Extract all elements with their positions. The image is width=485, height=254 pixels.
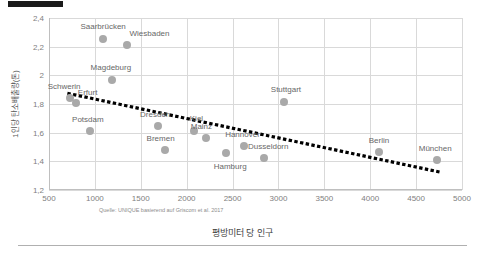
- y-tick-label: 1,4: [33, 157, 44, 166]
- data-point-label: Dusseldorn: [248, 141, 288, 150]
- gridline-horizontal: [49, 190, 462, 191]
- data-point[interactable]: [154, 122, 162, 130]
- data-point-label: Bremen: [147, 133, 175, 142]
- plot-area: 1,21,41,61,822,22,4 50010001500200025003…: [49, 18, 462, 190]
- x-tick-label: 4000: [361, 194, 379, 203]
- y-tick-label: 1,8: [33, 100, 44, 109]
- data-point[interactable]: [280, 98, 288, 106]
- x-tick-label: 3500: [315, 194, 333, 203]
- x-tick-label: 5000: [453, 194, 471, 203]
- x-axis-title: 평방미터 당 인구: [0, 226, 485, 239]
- data-point[interactable]: [202, 134, 210, 142]
- data-point-label: Hannover: [225, 129, 260, 138]
- data-point-label: Mainz: [191, 121, 212, 130]
- x-tick-label: 3000: [270, 194, 288, 203]
- x-tick-label: 2000: [178, 194, 196, 203]
- x-tick-label: 1500: [132, 194, 150, 203]
- data-point[interactable]: [86, 127, 94, 135]
- data-point[interactable]: [123, 41, 131, 49]
- data-point-label: Schwerin: [48, 82, 81, 91]
- gridline-vertical: [462, 18, 463, 190]
- data-point-label: Erfurt: [78, 88, 98, 97]
- data-point[interactable]: [161, 146, 169, 154]
- data-point[interactable]: [260, 154, 268, 162]
- data-point-label: Saarbrücken: [80, 21, 125, 30]
- bottom-divider: [18, 245, 467, 246]
- data-point-label: Hamburg: [214, 162, 247, 171]
- data-point-label: Dresden: [140, 110, 170, 119]
- data-point[interactable]: [433, 156, 441, 164]
- y-tick-label: 2: [40, 71, 44, 80]
- data-point[interactable]: [99, 35, 107, 43]
- data-point-label: München: [419, 143, 452, 152]
- y-tick-label: 1,6: [33, 128, 44, 137]
- data-point[interactable]: [108, 76, 116, 84]
- x-tick-label: 1000: [86, 194, 104, 203]
- data-point-label: Magdeburg: [91, 63, 131, 72]
- x-tick-label: 2500: [224, 194, 242, 203]
- data-point-label: Berlin: [369, 136, 389, 145]
- y-tick-label: 2,2: [33, 42, 44, 51]
- trendline: [49, 18, 462, 190]
- y-axis-title: 1인당 탄소배출량(톤): [9, 70, 20, 137]
- scatter-chart-figure: 1인당 탄소배출량(톤) 1,21,41,61,822,22,4 5001000…: [0, 0, 485, 254]
- data-point[interactable]: [222, 149, 230, 157]
- y-tick-label: 2,4: [33, 14, 44, 23]
- data-point[interactable]: [72, 99, 80, 107]
- data-point-label: Potsdam: [72, 114, 104, 123]
- data-point-label: Stuttgart: [271, 84, 301, 93]
- source-note: Quelle: UNIQUE basierend auf Griscom et …: [99, 207, 223, 213]
- x-tick-label: 500: [42, 194, 55, 203]
- x-tick-label: 4500: [407, 194, 425, 203]
- data-point[interactable]: [375, 148, 383, 156]
- data-point-label: Wiesbaden: [129, 28, 169, 37]
